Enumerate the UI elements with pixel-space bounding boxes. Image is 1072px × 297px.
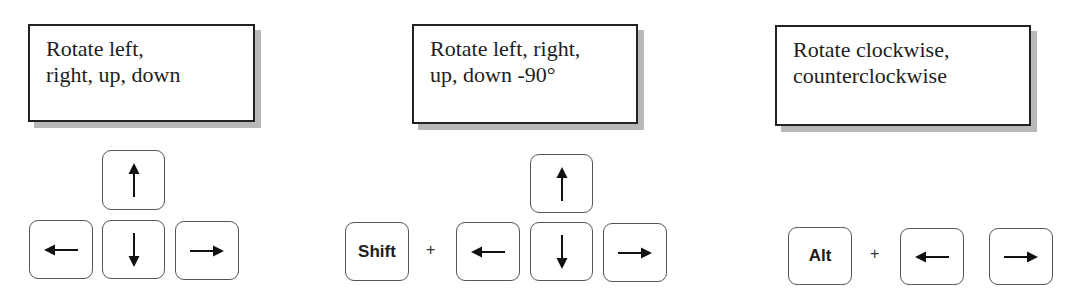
caption-line-1: Rotate left, right, xyxy=(430,36,622,62)
caption-rotate-90: Rotate left, right, up, down -90° xyxy=(412,24,638,124)
arrow-right-icon xyxy=(1004,250,1038,264)
arrow-down-icon xyxy=(555,235,569,269)
arrow-up-icon xyxy=(127,163,141,197)
arrow-left-icon xyxy=(44,243,78,257)
key-arrow-down[interactable] xyxy=(102,220,165,279)
arrow-right-icon xyxy=(618,246,652,260)
plus-sign: + xyxy=(870,245,879,263)
arrow-down-icon xyxy=(127,233,141,267)
key-shift-label: Shift xyxy=(358,242,396,262)
plus-sign: + xyxy=(426,241,435,259)
key-alt-label: Alt xyxy=(809,246,832,266)
arrow-left-icon xyxy=(915,250,949,264)
caption-line-1: Rotate left, xyxy=(46,36,239,62)
caption-rotate-directions: Rotate left, right, up, down xyxy=(28,24,255,122)
key-arrow-left[interactable] xyxy=(900,228,964,285)
arrow-right-icon xyxy=(190,244,224,258)
key-arrow-right[interactable] xyxy=(175,221,239,280)
key-arrow-up[interactable] xyxy=(102,150,165,210)
key-arrow-right[interactable] xyxy=(989,228,1053,285)
key-arrow-left[interactable] xyxy=(456,222,520,281)
key-alt[interactable]: Alt xyxy=(788,227,852,285)
caption-line-1: Rotate clockwise, xyxy=(793,37,1015,63)
caption-line-2: up, down -90° xyxy=(430,62,622,88)
key-arrow-left[interactable] xyxy=(29,220,93,279)
key-arrow-right[interactable] xyxy=(603,223,667,282)
arrow-left-icon xyxy=(471,245,505,259)
key-shift[interactable]: Shift xyxy=(345,222,409,281)
key-arrow-down[interactable] xyxy=(530,222,593,281)
caption-line-2: counterclockwise xyxy=(793,63,1015,89)
arrow-up-icon xyxy=(555,167,569,201)
key-arrow-up[interactable] xyxy=(530,154,593,213)
caption-line-2: right, up, down xyxy=(46,62,239,88)
caption-rotate-clockwise: Rotate clockwise, counterclockwise xyxy=(775,25,1031,126)
